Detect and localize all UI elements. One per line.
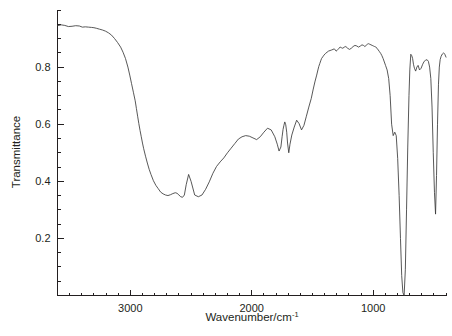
spectrum-curve (58, 25, 447, 296)
y-tick-label: 0.8 (35, 61, 50, 73)
x-axis-title: Wavenumber/cm-1 (205, 310, 298, 323)
y-tick-label: 0.6 (35, 118, 50, 130)
y-axis-tick-labels: 0.20.40.60.8 (35, 61, 50, 244)
spectrum-plot: 300020001000 0.20.40.60.8 Wavenumber/cm-… (0, 0, 452, 336)
ir-spectrum-figure: 300020001000 0.20.40.60.8 Wavenumber/cm-… (0, 0, 452, 336)
x-tick-label: 3000 (118, 302, 142, 314)
y-tick-label: 0.4 (35, 175, 50, 187)
y-axis-title: Transmittance (10, 116, 22, 188)
x-axis-ticks (58, 290, 447, 296)
x-tick-label: 1000 (361, 302, 385, 314)
y-axis-ticks (58, 10, 64, 296)
y-tick-label: 0.2 (35, 232, 50, 244)
